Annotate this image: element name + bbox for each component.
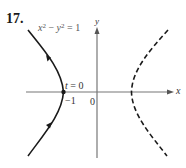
right-hyperbola-branch (132, 30, 169, 156)
parametric-curve-figure: 17. x2 − y2 = 1 t = 0 −1 0 y x (0, 0, 186, 168)
t-zero-label: t = 0 (65, 81, 83, 91)
left-hyperbola-branch (28, 30, 64, 156)
equation-rhs: = 1 (65, 22, 81, 33)
t-value: = 0 (68, 80, 84, 91)
x-axis-label: x (176, 86, 180, 96)
graph-canvas (0, 0, 186, 168)
neg-one-label: −1 (65, 96, 76, 106)
origin-label: 0 (90, 97, 95, 107)
equation-label: x2 − y2 = 1 (38, 23, 80, 33)
y-axis-arrow-icon (95, 27, 100, 34)
y-axis-label: y (95, 17, 99, 26)
problem-number: 17. (6, 11, 24, 27)
equation-minus: − (46, 22, 57, 33)
x-axis-arrow-icon (167, 90, 174, 95)
